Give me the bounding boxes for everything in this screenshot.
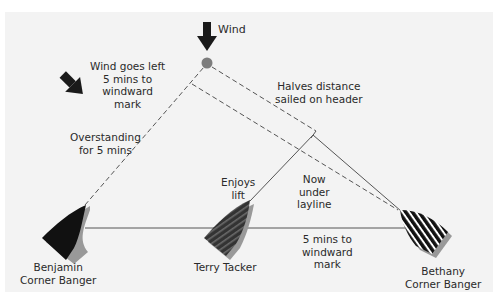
overstanding-line-1: Overstanding [70, 131, 141, 144]
bethany-line-1: Bethany [405, 265, 481, 278]
halves-distance-label: Halves distance sailed on header [275, 80, 363, 105]
five-mins-label: 5 mins to windward mark [302, 233, 353, 271]
shifted-wind-line-1: Wind goes left [90, 60, 165, 73]
under-layline-line-3: layline [297, 198, 332, 211]
five-mins-line-1: 5 mins to [302, 233, 353, 246]
halves-line-2: sailed on header [275, 93, 363, 106]
enjoys-lift-label: Enjoys lift [221, 176, 255, 201]
arrow-diagonal-icon [55, 67, 90, 102]
boat-bethany [400, 210, 452, 258]
terry-line-1: Terry Tacker [194, 261, 256, 274]
windward-mark-icon [202, 58, 213, 69]
boat-terry [204, 200, 254, 260]
five-mins-line-2: windward [302, 246, 353, 259]
under-layline-label: Now under layline [297, 173, 332, 211]
under-layline-line-2: under [297, 186, 332, 199]
five-mins-line-3: mark [302, 258, 353, 271]
terry-label: Terry Tacker [194, 261, 256, 274]
benjamin-line-2: Corner Banger [20, 274, 96, 287]
shifted-wind-line-3: windward [90, 85, 165, 98]
bethany-line-2: Corner Banger [405, 278, 481, 291]
overstanding-label: Overstanding for 5 mins [70, 131, 141, 156]
shifted-wind-label: Wind goes left 5 mins to windward mark [90, 60, 165, 110]
wind-label: Wind [218, 24, 246, 37]
benjamin-line-1: Benjamin [20, 261, 96, 274]
benjamin-label: Benjamin Corner Banger [20, 261, 96, 286]
bethany-label: Bethany Corner Banger [405, 265, 481, 290]
overstanding-line-2: for 5 mins [70, 144, 141, 157]
shifted-wind-line-4: mark [90, 98, 165, 111]
shifted-wind-line-2: 5 mins to [90, 73, 165, 86]
enjoys-lift-line-2: lift [221, 189, 255, 202]
boat-benjamin [42, 205, 90, 264]
enjoys-lift-line-1: Enjoys [221, 176, 255, 189]
halves-line-1: Halves distance [275, 80, 363, 93]
arrow-down-icon [197, 22, 217, 51]
under-layline-line-1: Now [297, 173, 332, 186]
